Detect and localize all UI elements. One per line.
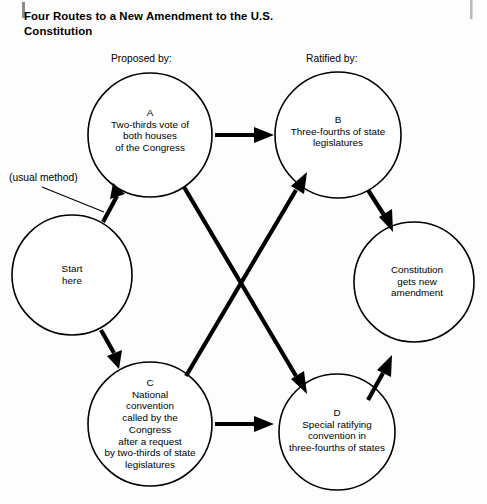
node-a-line-1: Two-thirds vote of bbox=[111, 118, 189, 130]
page-title: Four Routes to a New Amendment to the U.… bbox=[24, 9, 284, 38]
node-c-line-2: convention bbox=[104, 401, 195, 413]
node-result-line-2: amendment bbox=[391, 288, 443, 300]
node-b-line-0: B bbox=[291, 114, 385, 126]
edge-b-to-result bbox=[368, 190, 393, 232]
node-result-line-1: gets new bbox=[391, 276, 443, 288]
edge-start-to-c bbox=[101, 330, 122, 369]
node-d-line-0: D bbox=[289, 407, 385, 419]
node-c-line-7: legislatures bbox=[104, 459, 195, 471]
scan-artifact-right bbox=[470, 0, 473, 19]
node-d-line-3: three-fourths of states bbox=[289, 442, 385, 454]
diagram-canvas bbox=[0, 0, 487, 504]
node-b-label: B Three-fourths of state legislatures bbox=[291, 114, 385, 149]
node-a-label: A Two-thirds vote of both houses of the … bbox=[111, 107, 189, 154]
column-header-proposed: Proposed by: bbox=[111, 53, 172, 65]
node-a-line-0: A bbox=[111, 107, 189, 119]
usual-method-leader-line bbox=[42, 187, 104, 212]
node-start-label: Start here bbox=[62, 263, 83, 286]
page-title-line1: Four Routes to a New Amendment bbox=[24, 10, 213, 22]
node-result-line-0: Constitution bbox=[391, 264, 443, 276]
node-start-line-1: here bbox=[62, 275, 83, 287]
node-b-line-1: Three-fourths of state bbox=[291, 126, 385, 138]
node-c-line-3: called by the bbox=[104, 412, 195, 424]
node-c-line-6: by two-thirds of state bbox=[104, 447, 195, 459]
node-b-line-2: legislatures bbox=[291, 138, 385, 150]
node-d-label: D Special ratifying convention in three-… bbox=[289, 407, 385, 454]
node-a-line-3: of the Congress bbox=[111, 142, 189, 154]
node-a-line-2: both houses bbox=[111, 130, 189, 142]
node-d-line-1: Special ratifying bbox=[289, 418, 385, 430]
edge-a-to-b bbox=[215, 127, 274, 143]
edge-a-to-d bbox=[184, 187, 307, 394]
node-result-label: Constitution gets new amendment bbox=[391, 264, 443, 299]
annotation-usual-method: (usual method) bbox=[9, 172, 78, 184]
node-c-line-1: National bbox=[104, 389, 195, 401]
node-start-line-0: Start bbox=[62, 263, 83, 275]
column-header-ratified: Ratified by: bbox=[306, 53, 358, 65]
node-c-label: C National convention called by the Cong… bbox=[104, 377, 195, 471]
node-c-line-0: C bbox=[104, 377, 195, 389]
node-c-line-4: Congress bbox=[104, 424, 195, 436]
diagram-page: Four Routes to a New Amendment to the U.… bbox=[0, 0, 487, 504]
node-d-line-2: convention in bbox=[289, 430, 385, 442]
node-c-line-5: after a request bbox=[104, 436, 195, 448]
edge-c-to-b bbox=[186, 172, 307, 376]
edge-c-to-d bbox=[215, 416, 274, 432]
